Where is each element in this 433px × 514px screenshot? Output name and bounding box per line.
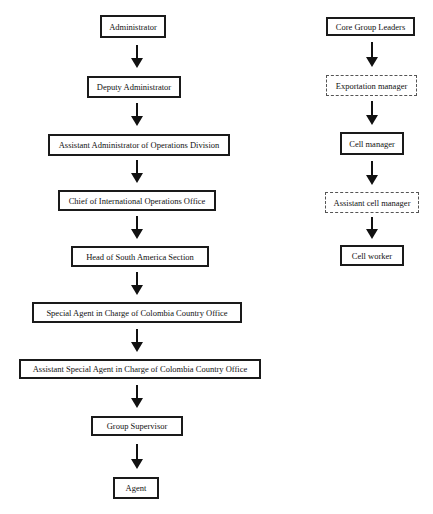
arrow-down-icon bbox=[131, 103, 143, 127]
arrow-down-icon bbox=[131, 272, 143, 296]
arrow-down-icon bbox=[366, 217, 378, 240]
node-head-south-america: Head of South America Section bbox=[71, 246, 209, 267]
node-exportation-manager: Exportation manager bbox=[326, 75, 417, 96]
node-label: Cell manager bbox=[349, 139, 395, 149]
node-group-supervisor: Group Supervisor bbox=[91, 416, 183, 436]
arrow-down-icon bbox=[131, 329, 143, 353]
arrow-down-icon bbox=[366, 42, 378, 68]
arrow-down-icon bbox=[131, 216, 143, 240]
node-label: Agent bbox=[126, 483, 147, 493]
node-label: Chief of International Operations Office bbox=[69, 196, 206, 206]
node-label: Assistant cell manager bbox=[334, 198, 411, 208]
node-deputy-administrator: Deputy Administrator bbox=[87, 76, 181, 98]
node-agent: Agent bbox=[113, 477, 159, 499]
arrow-down-icon bbox=[131, 444, 143, 470]
node-assistant-cell-manager: Assistant cell manager bbox=[325, 192, 419, 213]
node-label: Group Supervisor bbox=[107, 421, 168, 431]
arrow-down-icon bbox=[131, 385, 143, 409]
node-label: Assistant Special Agent in Charge of Col… bbox=[33, 364, 248, 374]
node-label: Special Agent in Charge of Colombia Coun… bbox=[46, 308, 227, 318]
arrow-down-icon bbox=[131, 160, 143, 184]
arrow-down-icon bbox=[131, 45, 143, 69]
node-label: Assistant Administrator of Operations Di… bbox=[59, 140, 220, 150]
node-label: Core Group Leaders bbox=[336, 22, 405, 32]
arrow-down-icon bbox=[366, 101, 378, 126]
node-label: Administrator bbox=[109, 22, 157, 32]
node-label: Cell worker bbox=[352, 251, 392, 261]
node-assistant-special-agent-in-charge: Assistant Special Agent in Charge of Col… bbox=[19, 359, 261, 379]
node-special-agent-in-charge: Special Agent in Charge of Colombia Coun… bbox=[32, 302, 242, 323]
node-cell-manager: Cell manager bbox=[340, 132, 404, 155]
node-chief-international-operations: Chief of International Operations Office bbox=[58, 190, 216, 211]
node-assistant-administrator-operations: Assistant Administrator of Operations Di… bbox=[48, 134, 230, 156]
node-label: Exportation manager bbox=[336, 81, 408, 91]
node-administrator: Administrator bbox=[100, 15, 166, 38]
node-cell-worker: Cell worker bbox=[340, 245, 404, 266]
node-core-group-leaders: Core Group Leaders bbox=[326, 17, 415, 36]
arrow-down-icon bbox=[366, 161, 378, 186]
node-label: Deputy Administrator bbox=[97, 82, 171, 92]
node-label: Head of South America Section bbox=[86, 252, 194, 262]
